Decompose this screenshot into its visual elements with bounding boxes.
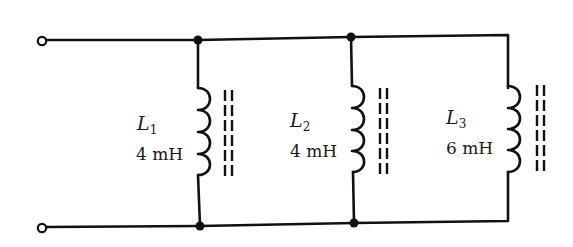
inductor-3-core <box>537 85 544 173</box>
inductor-1-coil <box>198 88 210 175</box>
inductor-2-value: 4 mH <box>290 141 337 161</box>
inductor-2-label: L2 <box>289 109 310 134</box>
inductor-2-coil <box>352 86 364 172</box>
inductor-3-coil <box>508 86 520 172</box>
inductor-1-core <box>225 90 232 178</box>
junction-dot <box>196 222 205 231</box>
top-rail-wire <box>46 35 508 88</box>
inductor-2-core <box>380 88 387 175</box>
junction-dot <box>194 36 203 45</box>
inductor-1-label: L1 <box>136 112 157 137</box>
junction-dot <box>350 219 359 228</box>
parallel-inductor-circuit: L1 4 mH L2 4 mH L3 6 mH <box>0 0 573 247</box>
terminal-top <box>38 37 46 45</box>
terminal-bottom <box>38 224 46 232</box>
inductor-1-value: 4 mH <box>136 144 183 164</box>
inductor-3-label: L3 <box>445 106 466 131</box>
inductor-3-value: 6 mH <box>446 138 493 158</box>
bottom-rail-wire <box>46 172 508 227</box>
junction-dot <box>347 33 356 42</box>
